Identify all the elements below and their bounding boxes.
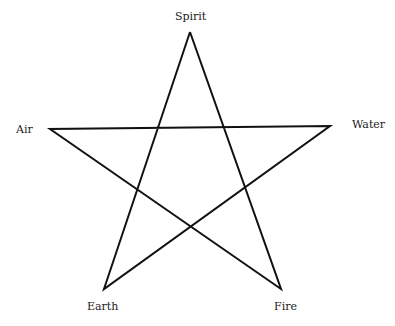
- label-fire: Fire: [274, 301, 297, 312]
- label-water: Water: [352, 119, 385, 130]
- label-spirit: Spirit: [175, 11, 206, 22]
- label-earth: Earth: [87, 301, 118, 312]
- pentagram-diagram: [0, 0, 395, 326]
- label-air: Air: [16, 124, 33, 135]
- pentagram-star-lines: [50, 32, 330, 289]
